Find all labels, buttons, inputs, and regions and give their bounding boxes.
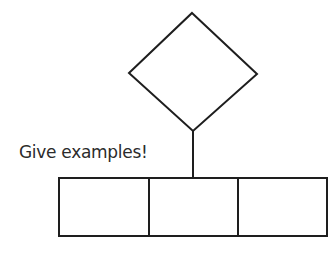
box-2 xyxy=(149,178,238,236)
give-examples-label: Give examples! xyxy=(19,142,147,162)
box-1 xyxy=(59,178,149,236)
decision-diamond xyxy=(129,13,257,131)
diagram-canvas xyxy=(0,0,333,260)
box-3 xyxy=(238,178,327,236)
